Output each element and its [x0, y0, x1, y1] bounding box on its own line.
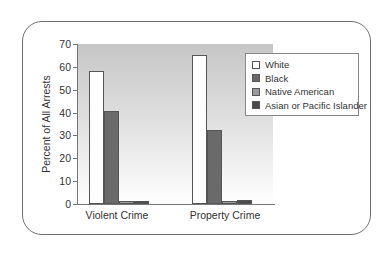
- legend-swatch-asian-pacific-islander: [252, 101, 260, 109]
- legend-swatch-native-american: [252, 88, 260, 96]
- bar-black-violent-crime: [104, 111, 119, 204]
- bar-asian-or-pacific-islander-property-crime: [237, 200, 252, 204]
- y-tick-label: 10: [52, 175, 71, 187]
- bar-black-property-crime: [207, 130, 222, 204]
- y-tick: [73, 204, 77, 205]
- legend-label: White: [265, 59, 289, 70]
- y-tick: [73, 181, 77, 182]
- y-tick: [73, 113, 77, 114]
- y-tick-label: 40: [52, 107, 71, 119]
- x-category-violent-crime: Violent Crime: [72, 209, 162, 221]
- legend-swatch-black: [252, 74, 260, 82]
- legend-item-asian-pacific-islander: Asian or Pacific Islander: [252, 99, 358, 113]
- legend-label: Asian or Pacific Islander: [265, 100, 367, 111]
- y-tick: [73, 135, 77, 136]
- legend-item-white: White: [252, 58, 358, 72]
- y-tick-label: 0: [52, 198, 71, 210]
- y-tick: [73, 44, 77, 45]
- y-axis: [77, 44, 78, 204]
- bar-white-property-crime: [192, 55, 207, 204]
- bar-native-american-property-crime: [222, 201, 237, 204]
- bar-native-american-violent-crime: [119, 201, 134, 204]
- y-tick-label: 30: [52, 129, 71, 141]
- legend-label: Native American: [265, 86, 334, 97]
- y-tick-label: 20: [52, 152, 71, 164]
- y-tick-label: 70: [52, 38, 71, 50]
- y-tick-label: 60: [52, 61, 71, 73]
- legend: White Black Native American Asian or Pac…: [245, 53, 359, 116]
- y-tick: [73, 67, 77, 68]
- x-category-property-crime: Property Crime: [180, 209, 270, 221]
- y-axis-label: Percent of All Arrests: [40, 64, 52, 184]
- legend-item-native-american: Native American: [252, 85, 358, 99]
- bar-white-violent-crime: [89, 71, 104, 204]
- legend-item-black: Black: [252, 72, 358, 86]
- y-tick: [73, 158, 77, 159]
- bar-asian-or-pacific-islander-violent-crime: [134, 201, 149, 204]
- legend-label: Black: [265, 73, 288, 84]
- y-tick: [73, 90, 77, 91]
- y-tick-label: 50: [52, 84, 71, 96]
- x-axis: [77, 204, 275, 205]
- legend-swatch-white: [252, 61, 260, 69]
